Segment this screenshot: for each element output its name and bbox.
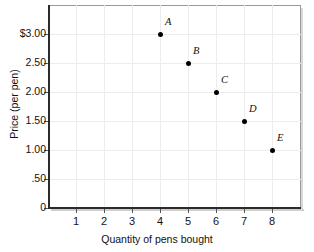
gridline-horizontal xyxy=(48,34,301,35)
x-axis-tick-label: 8 xyxy=(262,215,282,227)
data-point-label: C xyxy=(221,74,228,85)
x-axis-tick-label: 7 xyxy=(234,215,254,227)
x-axis-title: Quantity of pens bought xyxy=(0,233,314,245)
gridline-horizontal xyxy=(48,179,301,180)
x-axis-tick xyxy=(132,209,133,213)
data-point xyxy=(270,148,275,153)
data-point-label: E xyxy=(277,132,283,143)
gridline-horizontal xyxy=(48,121,301,122)
y-axis-tick-label: .50 xyxy=(31,173,46,184)
x-axis-tick-label: 5 xyxy=(178,215,198,227)
plot-frame-right-shadow xyxy=(301,8,303,210)
y-axis-tick-label: 0 xyxy=(40,202,46,213)
plot-area xyxy=(48,5,300,208)
gridline-vertical xyxy=(76,5,77,208)
x-axis-tick xyxy=(76,209,77,213)
x-axis-tick xyxy=(216,209,217,213)
x-axis-tick xyxy=(244,209,245,213)
x-axis-tick-label: 3 xyxy=(122,215,142,227)
price-quantity-scatter-chart: 0.501.001.502.002.50$3.00 12345678 ABCDE… xyxy=(0,0,314,252)
gridline-vertical xyxy=(244,5,245,208)
data-point xyxy=(186,61,191,66)
data-point-label: D xyxy=(249,103,257,114)
gridline-horizontal xyxy=(48,150,301,151)
y-axis-line xyxy=(48,5,50,209)
x-axis-tick xyxy=(160,209,161,213)
gridline-vertical xyxy=(132,5,133,208)
data-point-label: B xyxy=(193,45,199,56)
y-axis-tick-label: 1.50 xyxy=(26,115,46,126)
y-axis-tick-label: 2.00 xyxy=(26,86,46,97)
y-axis-tick-label: $3.00 xyxy=(20,28,46,39)
data-point xyxy=(158,32,163,37)
data-point xyxy=(214,90,219,95)
x-axis-tick-label: 4 xyxy=(150,215,170,227)
gridline-vertical xyxy=(216,5,217,208)
data-point xyxy=(242,119,247,124)
gridline-vertical xyxy=(188,5,189,208)
gridline-vertical xyxy=(272,5,273,208)
y-axis-title: Price (per pen) xyxy=(8,44,20,164)
plot-frame-top xyxy=(48,5,301,6)
x-axis-tick xyxy=(272,209,273,213)
x-axis-shadow xyxy=(51,209,304,211)
x-axis-tick xyxy=(104,209,105,213)
gridline-horizontal xyxy=(48,63,301,64)
x-axis-tick xyxy=(188,209,189,213)
x-axis-tick-label: 2 xyxy=(94,215,114,227)
x-axis-tick-label: 6 xyxy=(206,215,226,227)
data-point-label: A xyxy=(165,16,171,27)
gridline-vertical xyxy=(104,5,105,208)
x-axis-tick-label: 1 xyxy=(66,215,86,227)
gridline-horizontal xyxy=(48,92,301,93)
y-axis-tick-label: 2.50 xyxy=(26,57,46,68)
y-axis-tick-label: 1.00 xyxy=(26,144,46,155)
